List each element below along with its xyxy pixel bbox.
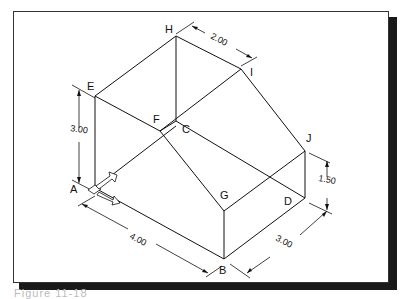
dim-height-right: 1.50: [318, 173, 337, 186]
label-J: J: [306, 132, 312, 144]
dim-top-width: 2.00: [209, 31, 229, 48]
figure-caption: Figure 11-18: [14, 287, 88, 299]
ucs-icon: [88, 172, 120, 205]
dim-height-left: 3.00: [70, 123, 89, 135]
edge-GJ: [224, 151, 305, 211]
label-B: B: [219, 264, 226, 276]
dim-length-front: 4.00: [128, 231, 148, 248]
label-A: A: [70, 183, 78, 195]
label-D: D: [284, 195, 292, 207]
edge-FG: [160, 131, 224, 211]
edge-IJ: [241, 69, 305, 151]
edge-BD: [224, 198, 305, 259]
object-edges: [95, 36, 305, 259]
edge-EF: [95, 96, 160, 131]
edge-EH: [95, 36, 176, 96]
edge-HI: [176, 36, 241, 69]
label-C: C: [182, 123, 190, 135]
dim-width-right: 3.00: [274, 233, 294, 250]
edge-FC-top: [160, 121, 176, 131]
label-F: F: [153, 113, 160, 125]
label-H: H: [165, 23, 173, 35]
dimension-arrows: [77, 26, 329, 273]
label-I: I: [250, 66, 253, 78]
edge-IF: [160, 69, 241, 131]
label-G: G: [220, 189, 229, 201]
edge-CD: [176, 121, 305, 198]
label-E: E: [87, 80, 94, 92]
